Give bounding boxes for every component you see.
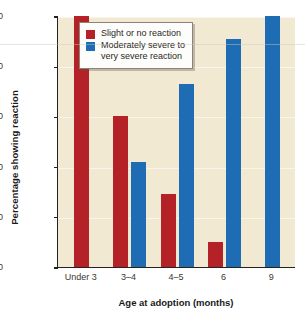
- y-tick-label: 20: [0, 212, 3, 222]
- bar-severe: [265, 16, 280, 267]
- x-axis-title: Age at adoption (months): [57, 297, 295, 308]
- y-tick-label: 80: [0, 61, 3, 71]
- y-tick-label: 0: [0, 262, 3, 272]
- bar-slight: [208, 242, 223, 267]
- legend-label-severe: Moderately severe tovery severe reaction: [101, 40, 185, 62]
- y-tick-mark: [54, 16, 58, 17]
- y-tick-label: 40: [0, 162, 3, 172]
- gridline: [58, 17, 295, 18]
- chart-legend: Slight or no reaction Moderately severe …: [79, 22, 193, 69]
- legend-label-slight: Slight or no reaction: [101, 28, 181, 39]
- chart-figure: Percentage showing reaction 020406080100…: [0, 0, 305, 326]
- bar-severe: [226, 39, 241, 267]
- legend-label-severe-line2: very severe reaction: [101, 51, 182, 61]
- y-tick-mark: [54, 117, 58, 118]
- y-tick-mark: [54, 167, 58, 168]
- bar-severe: [179, 84, 194, 267]
- gridline: [58, 168, 295, 169]
- y-tick-label: 100: [0, 11, 3, 21]
- bar-slight: [113, 116, 128, 267]
- legend-swatch-red-icon: [86, 30, 95, 39]
- gridline: [58, 218, 295, 219]
- gridline: [58, 117, 295, 118]
- bar-slight: [161, 194, 176, 267]
- x-tick-label: 9: [231, 272, 305, 282]
- legend-swatch-blue-icon: [86, 42, 95, 51]
- legend-item-severe: Moderately severe tovery severe reaction: [86, 40, 185, 62]
- y-tick-label: 60: [0, 111, 3, 121]
- legend-label-severe-line1: Moderately severe to: [101, 40, 185, 50]
- legend-item-slight: Slight or no reaction: [86, 28, 185, 39]
- bar-severe: [131, 162, 146, 267]
- y-axis-title: Percentage showing reaction: [9, 58, 20, 258]
- y-tick-mark: [54, 67, 58, 68]
- y-tick-mark: [54, 267, 58, 268]
- y-tick-mark: [54, 217, 58, 218]
